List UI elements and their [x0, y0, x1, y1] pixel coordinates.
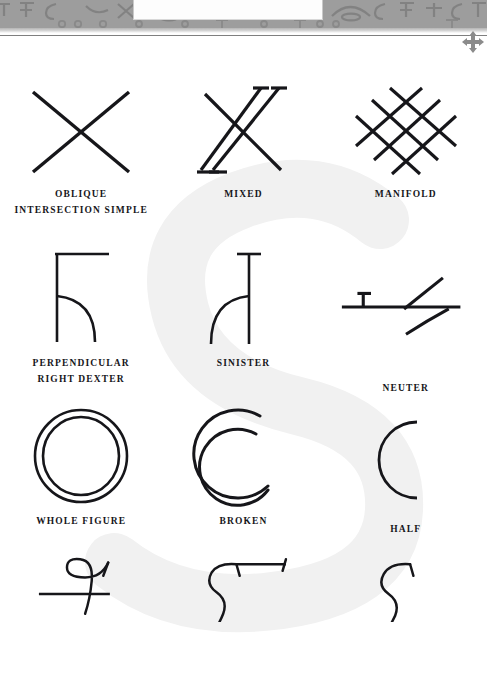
figure-label: WHOLE FIGURE [36, 513, 126, 529]
figure-label: NEUTER [383, 380, 430, 396]
stem-serif-arc-left-icon [183, 246, 303, 351]
figure-label: SINISTER [217, 355, 271, 371]
figure-cell-s-curve-with-bar[interactable] [162, 556, 324, 626]
figure-label: HALF [390, 521, 421, 537]
figure-label: BROKEN [219, 513, 267, 529]
double-open-crescent-icon [188, 404, 298, 509]
figure-label: MANIFOLD [375, 186, 437, 202]
figure-cell-whole-figure[interactable]: WHOLE FIGURE [0, 404, 162, 544]
figure-cell-mixed[interactable]: MIXED [162, 82, 324, 232]
s-curve-crossed-by-bar-icon [16, 556, 146, 622]
figure-row: WHOLE FIGURE BROKEN HALF [0, 404, 487, 544]
s-curve-plain-hook-icon [341, 556, 471, 622]
lattice-triple-diagonals-icon [346, 82, 466, 182]
figure-cell-oblique-intersection-simple[interactable]: OBLIQUE INTERSECTION SIMPLE [0, 82, 162, 232]
concentric-circles-icon [26, 404, 136, 509]
figure-row: OBLIQUE INTERSECTION SIMPLE MIXED [0, 82, 487, 232]
x-cross-doubled-serif-icon [183, 82, 303, 182]
figure-row-partial [0, 556, 487, 626]
x-cross-simple-icon [21, 82, 141, 182]
header-band-shadow [0, 28, 487, 33]
header-white-panel [133, 0, 323, 20]
figure-cell-half[interactable]: HALF [325, 404, 487, 544]
figure-row: PERPENDICULAR RIGHT DEXTER SINISTER [0, 246, 487, 396]
figure-cell-manifold[interactable]: MANIFOLD [325, 82, 487, 232]
figure-cell-neuter[interactable]: NEUTER [325, 246, 487, 396]
figure-cell-sinister[interactable]: SINISTER [162, 246, 324, 396]
horizontal-bar-tick-flourish-icon [336, 274, 476, 376]
figure-grid: OBLIQUE INTERSECTION SIMPLE MIXED [0, 36, 487, 690]
figure-label: MIXED [224, 186, 262, 202]
left-half-arc-icon [351, 412, 461, 517]
figure-label: PERPENDICULAR RIGHT DEXTER [33, 355, 130, 387]
figure-cell-broken[interactable]: BROKEN [162, 404, 324, 544]
stem-top-arm-arc-right-icon [21, 246, 141, 351]
figure-cell-perpendicular-right-dexter[interactable]: PERPENDICULAR RIGHT DEXTER [0, 246, 162, 396]
decorative-header-band [0, 0, 487, 28]
figure-label: OBLIQUE INTERSECTION SIMPLE [14, 186, 148, 218]
figure-cell-s-curve-plain[interactable] [325, 556, 487, 626]
s-curve-with-top-bar-icon [173, 556, 313, 622]
figure-cell-s-curve-crossed[interactable] [0, 556, 162, 626]
